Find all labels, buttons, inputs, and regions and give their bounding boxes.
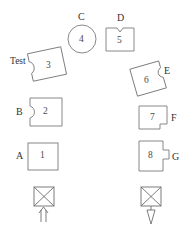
terminal-left-arrow-head xyxy=(39,207,48,213)
shape-8-rect-right-tab[interactable] xyxy=(139,141,169,171)
label-b: B xyxy=(16,107,23,117)
shape-5-number: 5 xyxy=(117,36,122,46)
shape-8-number: 8 xyxy=(148,151,153,161)
diagram-vector-layer xyxy=(0,0,188,229)
shape-6-number: 6 xyxy=(144,76,149,86)
shape-1-number: 1 xyxy=(40,151,45,161)
terminal-right-arrow-head xyxy=(147,210,155,224)
terminal-right-group[interactable] xyxy=(141,187,161,224)
label-f: F xyxy=(171,113,177,123)
label-g: G xyxy=(172,152,179,162)
label-e: E xyxy=(164,66,170,76)
terminal-left-group[interactable] xyxy=(34,187,54,222)
label-test: Test xyxy=(10,57,26,67)
shape-3-number: 3 xyxy=(46,61,51,71)
shape-2-number: 2 xyxy=(43,107,48,117)
shape-4-number: 4 xyxy=(79,35,84,45)
shape-7-number: 7 xyxy=(150,113,155,123)
label-c: C xyxy=(78,12,85,22)
diagram-canvas: 1 2 3 4 5 6 7 8 A B Test C D E F G xyxy=(0,0,188,229)
label-a: A xyxy=(16,151,23,161)
label-d: D xyxy=(117,13,124,23)
